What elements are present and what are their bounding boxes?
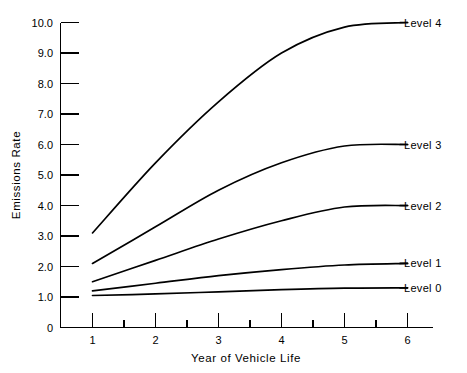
- x-tick-label: 3: [215, 334, 221, 346]
- y-tick-label: 6.0: [38, 139, 53, 151]
- x-axis-minor-ticks: [124, 320, 376, 328]
- x-axis-tick-labels: 1 2 3 4 5 6: [89, 334, 410, 346]
- y-axis-title: Emissions Rate: [10, 131, 22, 219]
- data-curve-level-2: [93, 205, 408, 281]
- x-tick-label: 4: [278, 334, 284, 346]
- y-tick-label: 8.0: [38, 78, 53, 90]
- x-axis-title: Year of Vehicle Life: [191, 352, 301, 364]
- y-axis-tick-labels: 10.0 9.0 8.0 7.0 6.0 5.0 4.0 3.0 2.0 1.0…: [32, 17, 53, 334]
- series-label-level-2: Level 2: [404, 200, 442, 212]
- series-label-level-0: Level 0: [404, 282, 442, 294]
- data-curve-level-4: [93, 23, 408, 233]
- x-tick-label: 2: [152, 334, 158, 346]
- data-series-group: [93, 23, 408, 296]
- y-tick-label: 0: [47, 322, 53, 334]
- series-labels-group: Level 4Level 3Level 2Level 1Level 0: [400, 17, 442, 294]
- data-curve-level-3: [93, 144, 408, 263]
- y-axis-ticks: [61, 23, 79, 298]
- chart-axes-lines: [61, 23, 433, 328]
- series-label-level-3: Level 3: [404, 139, 442, 151]
- x-tick-label: 6: [404, 334, 410, 346]
- data-curve-level-0: [93, 288, 408, 296]
- series-label-level-4: Level 4: [404, 17, 442, 29]
- x-tick-label: 1: [89, 334, 95, 346]
- chart-plot-area: 10.0 9.0 8.0 7.0 6.0 5.0 4.0 3.0 2.0 1.0…: [0, 0, 467, 373]
- y-tick-label: 1.0: [38, 291, 53, 303]
- data-curve-level-1: [93, 263, 408, 290]
- y-tick-label: 2.0: [38, 261, 53, 273]
- y-tick-label: 7.0: [38, 108, 53, 120]
- series-label-level-1: Level 1: [404, 257, 442, 269]
- y-tick-label: 5.0: [38, 169, 53, 181]
- y-tick-label: 9.0: [38, 47, 53, 59]
- y-tick-label: 4.0: [38, 200, 53, 212]
- emissions-rate-line-chart: 10.0 9.0 8.0 7.0 6.0 5.0 4.0 3.0 2.0 1.0…: [0, 0, 467, 373]
- y-tick-label: 10.0: [32, 17, 53, 29]
- y-tick-label: 3.0: [38, 230, 53, 242]
- x-tick-label: 5: [341, 334, 347, 346]
